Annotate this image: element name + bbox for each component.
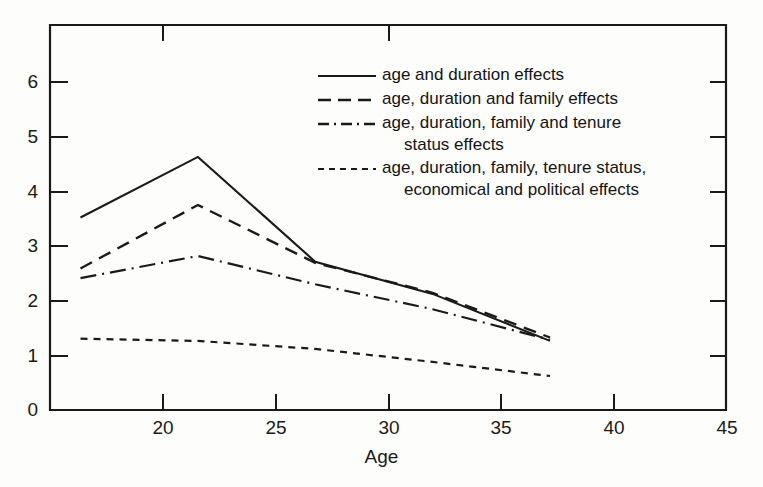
legend-item-dashed: age, duration and family effects bbox=[316, 89, 716, 110]
legend-line-sample-dashed bbox=[316, 89, 382, 109]
x-tick-label-40: 40 bbox=[594, 418, 634, 437]
x-axis-title: Age bbox=[0, 446, 763, 468]
chart-figure: 6 5 4 3 2 1 0 20 25 30 35 40 45 Age age … bbox=[0, 0, 763, 487]
x-tick-label-45: 45 bbox=[707, 418, 747, 437]
series-age-duration-family-effects bbox=[81, 205, 551, 338]
legend-item-dashdot: age, duration, family and tenure bbox=[316, 113, 716, 134]
chart-legend: age and duration effects age, duration a… bbox=[316, 65, 716, 203]
legend-line-sample-dashdot bbox=[316, 113, 382, 133]
legend-item-dotted: age, duration, family, tenure status, bbox=[316, 158, 716, 179]
legend-label-dashdot: age, duration, family and tenure bbox=[382, 113, 621, 133]
x-tick-label-25: 25 bbox=[256, 418, 296, 437]
legend-item-solid: age and duration effects bbox=[316, 65, 716, 86]
x-tick-label-30: 30 bbox=[369, 418, 409, 437]
legend-label-solid: age and duration effects bbox=[382, 65, 564, 85]
y-tick-label-3: 3 bbox=[8, 236, 38, 255]
legend-line-sample-dotted bbox=[316, 158, 382, 178]
x-axis-ticks bbox=[163, 394, 614, 410]
y-tick-label-1: 1 bbox=[8, 346, 38, 365]
legend-label-dotted-line2: economical and political effects bbox=[316, 180, 716, 200]
y-axis-ticks bbox=[50, 82, 68, 356]
series-age-duration-family-tenure-econ-pol-effects bbox=[81, 339, 551, 376]
series-age-duration-family-tenure-effects bbox=[81, 256, 551, 340]
y-tick-label-5: 5 bbox=[8, 127, 38, 146]
legend-label-dotted: age, duration, family, tenure status, bbox=[382, 158, 646, 178]
legend-label-dashed: age, duration and family effects bbox=[382, 89, 618, 109]
legend-label-dashdot-line2: status effects bbox=[316, 135, 716, 155]
y-tick-label-6: 6 bbox=[8, 72, 38, 91]
y-tick-label-2: 2 bbox=[8, 291, 38, 310]
x-axis-ticks-top bbox=[163, 25, 389, 41]
x-tick-label-35: 35 bbox=[481, 418, 521, 437]
y-tick-label-4: 4 bbox=[8, 182, 38, 201]
y-tick-label-0: 0 bbox=[8, 400, 38, 419]
x-tick-label-20: 20 bbox=[143, 418, 183, 437]
legend-line-sample-solid bbox=[316, 65, 382, 85]
